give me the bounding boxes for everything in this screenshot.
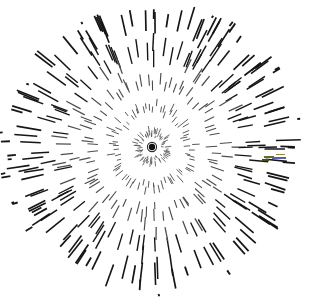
ray-dash xyxy=(280,146,294,147)
ray-dash xyxy=(155,237,156,251)
ray-dash xyxy=(239,147,253,148)
plot-background xyxy=(0,0,311,297)
stray-color-mark xyxy=(276,154,285,155)
stray-color-mark xyxy=(262,159,269,161)
stray-color-mark xyxy=(272,157,286,159)
radial-burst-plot xyxy=(0,0,311,297)
ray-dash xyxy=(246,142,261,143)
ray-dash xyxy=(184,146,190,147)
ray-dash xyxy=(26,84,29,85)
ray-dash xyxy=(276,140,301,141)
ray-dash xyxy=(206,146,217,147)
ray-dash xyxy=(1,173,5,174)
ray-dash xyxy=(140,280,141,291)
figure-canvas xyxy=(0,0,311,297)
ray-dash xyxy=(81,22,82,24)
ray-dash xyxy=(153,33,154,51)
ray-dash xyxy=(155,263,156,285)
ray-dash xyxy=(212,16,213,18)
ray-dash xyxy=(7,155,16,156)
ray-dash xyxy=(156,99,157,106)
ray-dash xyxy=(212,153,221,154)
ray-dash xyxy=(160,73,161,85)
ray-dash xyxy=(152,106,153,112)
ray-dash xyxy=(31,152,49,153)
ray-dash xyxy=(113,142,118,143)
ray-dash xyxy=(159,294,160,296)
ray-dash xyxy=(283,162,295,163)
center-dot xyxy=(149,144,155,150)
ray-dash xyxy=(157,257,158,279)
